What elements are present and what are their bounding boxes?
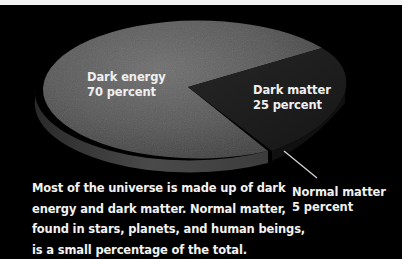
caption-line: is a small percentage of the total. [32,240,292,259]
label-normal-matter-value: 5 percent [292,200,386,215]
label-dark-matter-name: Dark matter [253,83,331,98]
caption: Most of the universe is made up of dark … [32,178,292,259]
normal-matter-leader-line [284,151,317,178]
caption-line: Most of the universe is made up of dark [32,178,292,199]
label-normal-matter-name: Normal matter [292,185,386,200]
label-normal-matter: Normal matter 5 percent [292,185,386,215]
label-dark-energy: Dark energy 70 percent [87,70,166,100]
label-dark-matter-value: 25 percent [253,98,331,113]
caption-line: found in stars, planets, and human being… [32,219,292,240]
label-dark-energy-value: 70 percent [87,85,166,100]
caption-line: energy and dark matter. Normal matter, [32,199,292,220]
label-dark-energy-name: Dark energy [87,70,166,85]
label-dark-matter: Dark matter 25 percent [253,83,331,113]
chart-area: Dark energy 70 percent Dark matter 25 pe… [0,5,402,259]
